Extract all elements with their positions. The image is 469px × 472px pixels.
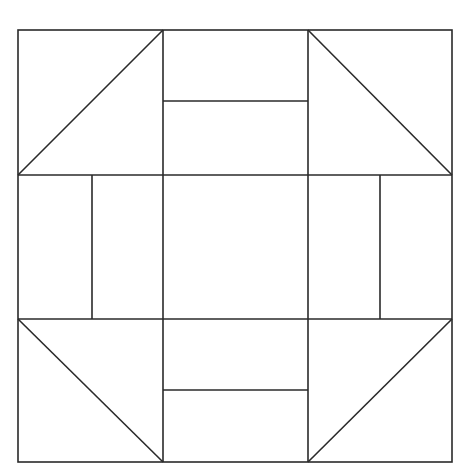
diagonal-bottom-right xyxy=(308,319,452,462)
diagonal-bottom-left xyxy=(18,319,163,462)
diagonal-top-left xyxy=(18,30,163,175)
diagonal-top-right xyxy=(308,30,452,175)
quilt-block-diagram xyxy=(0,0,469,472)
outer-square xyxy=(18,30,452,462)
